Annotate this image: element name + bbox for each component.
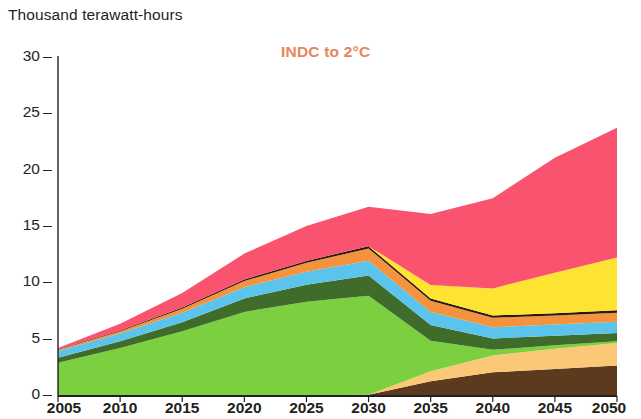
y-axis-tick-label: 25 <box>23 103 40 120</box>
y-axis-tick-label: 0 <box>31 385 40 402</box>
x-axis-tick-label: 2015 <box>165 399 199 417</box>
x-axis-tick-label: 2035 <box>413 399 447 417</box>
y-axis-tick: 5 <box>0 329 52 347</box>
x-axis-tick-label: 2010 <box>103 399 137 417</box>
y-axis-tick: 30 <box>0 47 52 65</box>
y-axis-tick: 25 <box>0 103 52 121</box>
x-axis-tick-label: 2045 <box>538 399 572 417</box>
x-axis-tick-label: 2020 <box>227 399 261 417</box>
plot-area <box>0 0 641 419</box>
x-axis-tick-label: 2040 <box>476 399 510 417</box>
y-axis-tick: 10 <box>0 272 52 290</box>
y-axis-tick-label: 15 <box>23 216 40 233</box>
y-axis-tick-label: 10 <box>23 272 40 289</box>
x-axis-tick-label: 2030 <box>351 399 385 417</box>
y-axis-tick-label: 20 <box>23 160 40 177</box>
x-axis-tick-label: 2025 <box>289 399 323 417</box>
y-axis-tick-mark <box>43 170 52 171</box>
x-axis-tick-label: 2050 <box>592 399 626 417</box>
y-axis-tick-mark <box>43 395 52 396</box>
y-axis-tick-mark <box>43 113 52 114</box>
y-axis-tick-mark <box>43 282 52 283</box>
y-axis-tick: 20 <box>0 160 52 178</box>
x-axis-tick-label: 2005 <box>47 399 81 417</box>
y-axis-tick-label: 30 <box>23 47 40 64</box>
y-axis-tick-mark <box>43 226 52 227</box>
y-axis-tick: 15 <box>0 216 52 234</box>
y-axis-tick-mark <box>43 57 52 58</box>
y-axis-tick-mark <box>43 339 52 340</box>
y-axis-tick: 0 <box>0 385 52 403</box>
area-chart: Thousand terawatt-hours INDC to 2°C 0510… <box>0 0 641 419</box>
y-axis-tick-label: 5 <box>31 329 40 346</box>
